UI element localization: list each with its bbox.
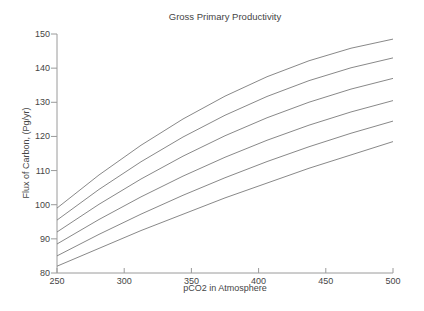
y-tick-label: 130 — [35, 97, 50, 107]
y-tick-label: 110 — [36, 166, 50, 176]
data-curve — [57, 142, 393, 267]
x-tick-label: 450 — [318, 276, 333, 286]
x-tick-label: 400 — [251, 276, 266, 286]
plot-area: 2503003504004505008090100110120130140150 — [35, 29, 401, 286]
data-curve — [57, 101, 393, 244]
y-tick-label: 80 — [40, 268, 50, 278]
x-tick-label: 300 — [117, 276, 132, 286]
y-tick-label: 140 — [35, 63, 50, 73]
chart-canvas: Gross Primary Productivity pCO2 in Atmos… — [0, 0, 424, 311]
y-tick-label: 150 — [35, 29, 50, 39]
data-curve — [57, 78, 393, 232]
x-tick-label: 250 — [49, 276, 64, 286]
y-tick-label: 120 — [35, 131, 50, 141]
data-curve — [57, 39, 393, 208]
y-tick-label: 90 — [40, 234, 50, 244]
y-tick-label: 100 — [35, 200, 50, 210]
chart-title: Gross Primary Productivity — [169, 11, 282, 22]
x-tick-label: 500 — [385, 276, 400, 286]
y-axis-label: Flux of Carbon, (Pg/yr) — [21, 107, 31, 198]
data-curve — [57, 58, 393, 220]
chart-figure: Gross Primary Productivity pCO2 in Atmos… — [0, 0, 424, 311]
x-tick-label: 350 — [184, 276, 199, 286]
data-curve — [57, 121, 393, 256]
